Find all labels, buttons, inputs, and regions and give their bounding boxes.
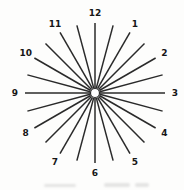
hour-label-12: 12 (89, 8, 102, 18)
hour-label-5: 5 (132, 157, 138, 167)
clock-dial-figure: 121234567891011 (0, 0, 184, 190)
cropped-caption-fragment (44, 184, 76, 187)
dial-spoke (34, 96, 90, 129)
clock-dial-chart: 121234567891011 (0, 0, 184, 190)
hour-label-11: 11 (49, 19, 62, 29)
hour-label-9: 9 (12, 88, 18, 98)
dial-spoke (77, 25, 94, 88)
dial-spoke (100, 75, 163, 92)
dial-spoke (46, 44, 92, 90)
dial-spoke (99, 58, 155, 91)
dial-spoke (100, 94, 163, 111)
hour-label-7: 7 (52, 157, 58, 167)
dial-spoke (96, 98, 113, 161)
hour-label-6: 6 (92, 168, 98, 178)
hour-label-2: 2 (161, 48, 167, 58)
hour-label-1: 1 (132, 19, 138, 29)
dial-spoke (99, 44, 145, 90)
hour-label-3: 3 (172, 88, 178, 98)
dial-spoke (46, 97, 92, 143)
dial-hub-circle (91, 89, 100, 98)
cropped-caption-fragment (104, 183, 130, 187)
dial-spoke (77, 98, 94, 161)
dial-spoke (34, 58, 90, 91)
hour-label-4: 4 (161, 128, 167, 138)
dial-spoke (98, 32, 131, 88)
dial-spoke (60, 97, 93, 153)
hour-label-10: 10 (19, 48, 32, 58)
dial-spoke (60, 32, 93, 88)
hour-label-8: 8 (23, 128, 29, 138)
dial-spoke (27, 75, 90, 92)
dial-spoke (98, 97, 131, 153)
dial-spoke (96, 25, 113, 88)
dial-spoke (27, 94, 90, 111)
cropped-caption-fragment (135, 183, 149, 187)
dial-spoke (99, 97, 145, 143)
dial-spoke (99, 96, 155, 129)
